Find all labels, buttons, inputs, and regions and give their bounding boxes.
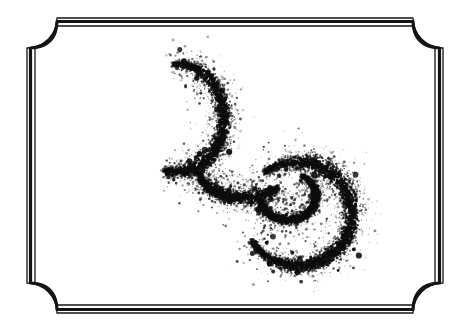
outer-rule xyxy=(27,18,443,313)
frame-rule-group xyxy=(27,18,443,313)
plate-canvas: Stippled Double-Spiral Plate xyxy=(0,0,470,334)
inner-rule xyxy=(35,26,435,305)
middle-rule xyxy=(31,22,440,310)
ornamental-frame xyxy=(0,0,470,334)
